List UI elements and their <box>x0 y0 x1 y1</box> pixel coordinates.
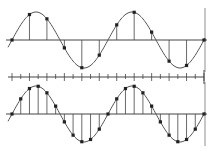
top-sampled-wave <box>6 8 207 72</box>
sample-dot <box>89 138 92 141</box>
sample-dot <box>10 38 13 41</box>
sample-dot <box>185 64 188 67</box>
sample-dot <box>133 85 136 88</box>
sample-dot <box>28 13 31 16</box>
sample-dot <box>167 60 170 63</box>
sample-dot <box>63 120 66 123</box>
sample-dot <box>106 112 109 115</box>
sample-dot <box>80 66 83 69</box>
sample-dot <box>150 31 153 34</box>
sample-dot <box>98 128 101 131</box>
sample-dot <box>37 85 40 88</box>
sample-dot <box>141 91 144 94</box>
sample-dot <box>71 134 74 137</box>
time-axis <box>8 70 204 84</box>
sample-dot <box>176 140 179 143</box>
sample-dot <box>10 112 13 115</box>
sample-dot <box>115 97 118 100</box>
sample-dot <box>63 46 66 49</box>
sample-dot <box>133 11 136 14</box>
sample-dot <box>54 105 57 108</box>
bottom-sampled-wave <box>6 82 207 146</box>
sample-dot <box>159 120 162 123</box>
sample-dot <box>115 23 118 26</box>
sample-dot <box>45 91 48 94</box>
sample-dot <box>19 97 22 100</box>
sample-dot <box>194 128 197 131</box>
sample-dot <box>45 17 48 20</box>
sample-dot <box>185 138 188 141</box>
sample-dot <box>28 87 31 90</box>
sampled-sine-diagram <box>0 0 211 155</box>
sample-dot <box>150 105 153 108</box>
sample-dot <box>124 87 127 90</box>
sample-dot <box>80 140 83 143</box>
sample-dot <box>98 54 101 57</box>
sample-dot <box>167 134 170 137</box>
